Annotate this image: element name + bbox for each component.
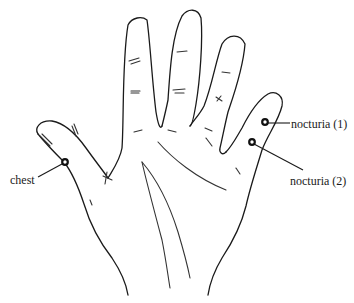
marker-nocturia-2-icon: [249, 139, 255, 145]
thumb-inner-edge: [38, 134, 128, 295]
hand-diagram: [0, 0, 354, 303]
label-chest: chest: [10, 174, 35, 186]
leader-chest: [38, 164, 62, 177]
index-finger-outline: [108, 18, 162, 178]
marker-chest-icon: [62, 159, 68, 165]
palm-creases: [90, 130, 240, 288]
finger-creases: [40, 51, 230, 184]
label-nocturia-2: nocturia (2): [290, 175, 346, 187]
leader-nocturia-2: [254, 144, 303, 170]
marker-nocturia-1-icon: [262, 119, 268, 125]
hand-outline: [37, 10, 283, 295]
thumb-outline: [37, 121, 108, 178]
label-nocturia-1: nocturia (1): [291, 118, 347, 130]
middle-finger-outline: [162, 10, 202, 126]
